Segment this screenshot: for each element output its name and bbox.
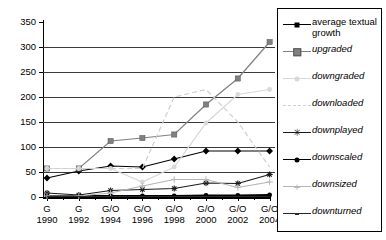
legend-item-downloaded[interactable]: downloaded <box>282 98 381 124</box>
legend-item-downsized[interactable]: +downsized <box>282 179 381 205</box>
legend-swatch-icon: + <box>282 180 312 194</box>
legend-marker-line <box>295 213 299 215</box>
legend-label: average textual growth <box>312 17 381 38</box>
legend-label: downplayed <box>312 125 363 136</box>
legend-item-average-textual-growth[interactable]: average textual growth <box>282 17 381 43</box>
legend-swatch-icon: ✳ <box>282 126 312 140</box>
legend-label: upgraded <box>312 44 352 55</box>
legend-label: downsized <box>312 179 357 190</box>
legend-swatch-icon <box>282 45 312 59</box>
legend-marker-plus: + <box>294 184 300 190</box>
series-downloaded <box>47 90 270 169</box>
legend-label: downloaded <box>312 98 363 109</box>
legend-item-downturned[interactable]: downturned <box>282 206 381 232</box>
series-average-textual-growth <box>44 148 273 182</box>
legend-swatch-icon <box>282 153 312 167</box>
legend-item-downgraded[interactable]: downgraded <box>282 71 381 97</box>
legend-item-downplayed[interactable]: ✳downplayed <box>282 125 381 151</box>
legend-label: downgraded <box>312 71 364 82</box>
legend-marker-star: ✳ <box>293 130 301 136</box>
legend-marker-diamond <box>295 23 300 28</box>
legend-marker-square <box>293 48 301 56</box>
legend-marker-dot-light <box>295 77 300 82</box>
line-chart: 050100150200250300350 G1990G1992G/O1994G… <box>0 0 386 240</box>
legend-label: downturned <box>312 206 362 217</box>
legend-swatch-icon <box>282 72 312 86</box>
legend-swatch-icon <box>282 18 312 32</box>
legend-item-upgraded[interactable]: upgraded <box>282 44 381 70</box>
legend-label: downscaled <box>312 152 362 163</box>
legend-item-downscaled[interactable]: downscaled <box>282 152 381 178</box>
legend-swatch-icon <box>282 207 312 221</box>
legend: average textual growthupgradeddowngraded… <box>277 8 382 232</box>
legend-marker-dot <box>295 158 300 163</box>
legend-swatch-icon <box>282 99 312 113</box>
